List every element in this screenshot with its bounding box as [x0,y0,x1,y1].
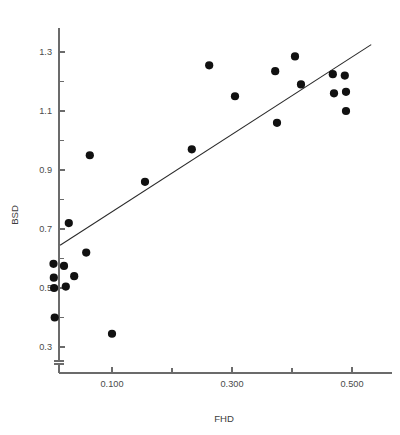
data-point [341,72,349,80]
data-point [291,52,299,60]
x-tick-label: 0.300 [221,379,244,389]
data-point [70,272,78,280]
y-tick-label: 1.3 [39,47,52,57]
y-tick-label: 0.9 [39,165,52,175]
data-point [86,151,94,159]
data-point [51,313,59,321]
data-point [65,219,73,227]
data-point [329,70,337,78]
data-point [297,80,305,88]
x-tick-label: 0.500 [341,379,364,389]
data-point [205,61,213,69]
y-tick-label: 0.7 [39,224,52,234]
data-point [62,282,70,290]
data-point [49,260,57,268]
data-point [330,89,338,97]
data-point [50,284,58,292]
data-point [273,119,281,127]
data-point [342,88,350,96]
x-axis-title: FHD [214,413,234,424]
data-point [50,274,58,282]
data-point [141,178,149,186]
data-point [108,330,116,338]
y-axis-title: BSD [9,205,20,225]
data-point [231,92,239,100]
x-tick-label: 0.100 [101,379,124,389]
y-tick-label: 0.3 [39,342,52,352]
data-point [271,67,279,75]
data-point [82,249,90,257]
data-point [60,262,68,270]
data-point [342,107,350,115]
data-point [188,145,196,153]
y-tick-label: 1.1 [39,106,52,116]
chart-canvas: 0.30.50.70.91.11.3 0.1000.3000.500 BSD F… [0,0,400,435]
scatter-plot-figure: 0.30.50.70.91.11.3 0.1000.3000.500 BSD F… [0,0,400,435]
